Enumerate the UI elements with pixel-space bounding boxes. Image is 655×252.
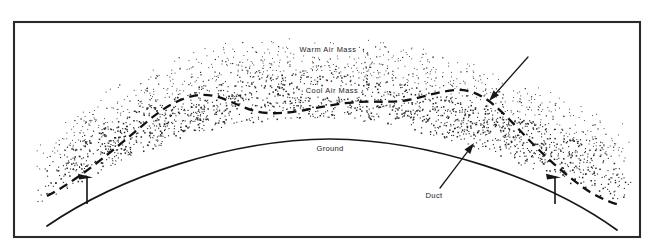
label-warm-air-mass: Warm Air Mass bbox=[300, 45, 357, 54]
duct-diagram: Warm Air Mass Cool Air Mass Ground Duct bbox=[0, 0, 655, 252]
duct-thickness-right bbox=[546, 174, 561, 204]
figure-root: Warm Air Mass Cool Air Mass Ground Duct bbox=[0, 0, 655, 252]
duct-pointer bbox=[440, 143, 474, 188]
stipple-shading bbox=[37, 38, 632, 202]
label-ground: Ground bbox=[316, 144, 343, 153]
duct-thickness-markers bbox=[78, 174, 561, 204]
label-cool-air-mass: Cool Air Mass bbox=[306, 86, 359, 95]
label-duct: Duct bbox=[426, 191, 443, 200]
inversion-pointer bbox=[489, 57, 528, 101]
